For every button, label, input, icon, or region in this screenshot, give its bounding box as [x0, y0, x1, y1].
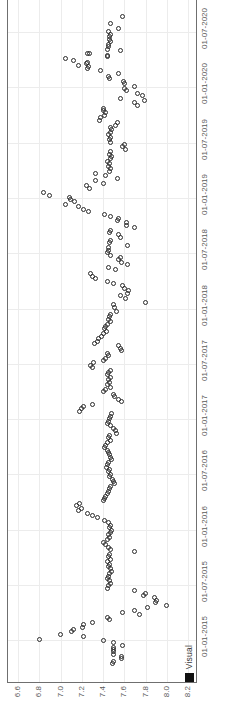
vertical-gridline: [124, 0, 125, 682]
vertical-gridline: [82, 0, 83, 682]
horizontal-gridline: [8, 309, 196, 310]
scatter-point: [125, 262, 130, 267]
horizontal-gridline: [8, 32, 196, 33]
horizontal-gridline: [8, 474, 196, 475]
value-axis-tick-label: 6.8: [34, 686, 43, 697]
scatter-point: [90, 402, 95, 407]
horizontal-gridline: [8, 585, 196, 586]
horizontal-gridline: [8, 419, 196, 420]
scatter-point: [113, 267, 118, 272]
scatter-point: [120, 610, 125, 615]
scatter-point: [63, 56, 68, 61]
scatter-point: [115, 218, 120, 223]
scatter-point: [63, 202, 68, 207]
plot-area: [7, 0, 197, 683]
scatter-point: [105, 47, 110, 52]
scatter-point: [132, 549, 137, 554]
value-axis-tick-label: 7.4: [98, 686, 107, 697]
scatter-point: [132, 225, 137, 230]
scatter-point: [120, 643, 125, 648]
scatter-point: [118, 293, 123, 298]
vertical-gridline: [103, 0, 104, 682]
chart-root: 01-07-202001-01-202001-07-201901-01-2019…: [0, 0, 232, 711]
scatter-point: [108, 385, 113, 390]
scatter-point: [145, 605, 150, 610]
scatter-point: [80, 625, 85, 630]
scatter-point: [119, 656, 124, 661]
scatter-point: [108, 21, 113, 26]
scatter-point: [164, 603, 169, 608]
value-axis-tick-label: 7.8: [141, 686, 150, 697]
scatter-point: [105, 279, 110, 284]
date-axis-tick-label: 01-01-2016: [200, 506, 209, 547]
scatter-point: [37, 637, 42, 642]
date-axis-tick-label: 01-01-2018: [200, 285, 209, 326]
vertical-gridline: [167, 0, 168, 682]
date-axis-tick-label: 01-07-2015: [200, 561, 209, 602]
scatter-point: [103, 173, 108, 178]
date-axis-tick-label: 01-01-2020: [200, 63, 209, 104]
scatter-point: [69, 629, 74, 634]
scatter-point: [105, 586, 110, 591]
scatter-point: [110, 661, 115, 666]
scatter-point: [123, 296, 128, 301]
scatter-point: [125, 291, 130, 296]
scatter-point: [111, 281, 116, 286]
scatter-point: [90, 365, 95, 370]
scatter-point: [107, 169, 112, 174]
scatter-point: [47, 193, 52, 198]
scatter-point: [87, 186, 92, 191]
value-axis-tick-label: 7.6: [119, 686, 128, 697]
horizontal-gridline: [8, 530, 196, 531]
scatter-point: [105, 54, 110, 59]
scatter-point: [85, 66, 90, 71]
horizontal-gridline: [8, 87, 196, 88]
scatter-point: [118, 48, 123, 53]
value-axis-tick-label: 7.2: [77, 686, 86, 697]
scatter-point: [112, 481, 117, 486]
scatter-point: [114, 309, 119, 314]
horizontal-gridline: [8, 198, 196, 199]
scatter-point: [101, 181, 106, 186]
scatter-point: [124, 223, 129, 228]
value-axis-labels: 6.66.87.07.27.47.67.88.08.2: [7, 686, 197, 711]
scatter-point: [123, 147, 128, 152]
scatter-point: [93, 178, 98, 183]
scatter-point: [142, 98, 147, 103]
scatter-point: [106, 265, 111, 270]
scatter-point: [114, 431, 119, 436]
scatter-point: [137, 612, 142, 617]
scatter-point: [92, 341, 97, 346]
legend[interactable]: Visual: [176, 612, 202, 682]
scatter-point: [81, 634, 86, 639]
date-axis-tick-label: 01-01-2019: [200, 174, 209, 215]
scatter-point: [118, 96, 123, 101]
scatter-point: [76, 204, 81, 209]
scatter-point: [87, 51, 92, 56]
scatter-point: [101, 498, 106, 503]
scatter-point: [77, 409, 82, 414]
scatter-point: [132, 608, 137, 613]
scatter-point: [108, 253, 113, 258]
date-axis-tick-label: 01-01-2017: [200, 395, 209, 436]
value-axis-tick-label: 7.0: [56, 686, 65, 697]
scatter-point: [93, 171, 98, 176]
vertical-gridline: [61, 0, 62, 682]
horizontal-gridline: [8, 143, 196, 144]
scatter-point: [141, 593, 146, 598]
date-axis-labels: 01-07-202001-01-202001-07-201901-01-2019…: [198, 0, 232, 683]
scatter-point: [153, 600, 158, 605]
date-axis-tick-label: 01-07-2019: [200, 119, 209, 160]
scatter-point: [124, 88, 129, 93]
vertical-gridline: [39, 0, 40, 682]
scatter-point: [115, 176, 120, 181]
scatter-point: [101, 389, 106, 394]
horizontal-gridline: [8, 253, 196, 254]
scatter-point: [90, 513, 95, 518]
value-axis-tick-label: 8.2: [183, 686, 192, 697]
scatter-point: [107, 76, 112, 81]
scatter-point: [58, 632, 63, 637]
scatter-point: [101, 638, 106, 643]
date-axis-tick-label: 01-07-2017: [200, 340, 209, 381]
scatter-point: [116, 71, 121, 76]
